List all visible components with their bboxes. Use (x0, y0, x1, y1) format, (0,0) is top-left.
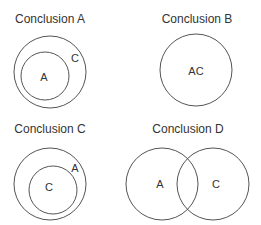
circle-label: A (40, 71, 48, 83)
venn-diagram-grid: Conclusion A C A Conclusion B AC Conclus… (0, 0, 261, 225)
panel-title: Conclusion D (152, 122, 224, 136)
panel-title: Conclusion C (14, 122, 86, 136)
panel-title: Conclusion B (162, 12, 233, 26)
panel-conclusion-b: Conclusion B AC (160, 12, 232, 106)
circle-label: C (212, 178, 220, 190)
panel-conclusion-a: Conclusion A C A (14, 12, 86, 108)
circle-label: C (71, 52, 79, 64)
circle-label: AC (188, 65, 203, 77)
panel-conclusion-d: Conclusion D A C (126, 122, 249, 220)
circle-label: A (71, 162, 79, 174)
panel-title: Conclusion A (15, 12, 85, 26)
circle-c (14, 36, 86, 108)
circle-c (29, 166, 77, 214)
panel-conclusion-c: Conclusion C A C (14, 122, 86, 220)
circle-label: C (45, 181, 53, 193)
circle-label: A (156, 178, 164, 190)
